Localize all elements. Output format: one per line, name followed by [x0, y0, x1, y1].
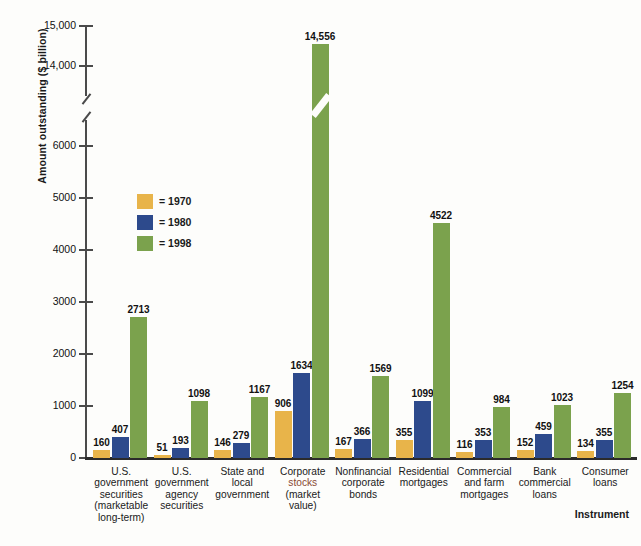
bar-value-label: 1023	[545, 392, 579, 403]
bar-value-label: 1167	[243, 384, 277, 395]
bar	[354, 439, 371, 458]
y-axis-tick-label: 4000	[18, 244, 76, 254]
legend-item: = 1980	[137, 213, 191, 231]
y-axis-tick-label: 5000	[18, 192, 76, 202]
legend-swatch	[137, 236, 153, 251]
legend-swatch	[137, 194, 153, 209]
bar	[493, 407, 510, 458]
bar-value-label: 984	[485, 394, 519, 405]
legend-label: = 1980	[159, 216, 191, 228]
bar-value-label: 1569	[364, 363, 398, 374]
bar-value-label: 1254	[606, 380, 640, 391]
bar	[614, 393, 631, 458]
y-axis-tick-label: 0	[18, 452, 76, 462]
x-axis-category-label: Consumerloans	[567, 466, 641, 489]
bar	[414, 401, 431, 458]
y-axis-tick-label: 2000	[18, 348, 76, 358]
bar	[535, 434, 552, 458]
legend: = 1970= 1980= 1998	[137, 192, 191, 255]
bar	[517, 450, 534, 458]
bar	[191, 401, 208, 458]
bar	[275, 411, 292, 458]
y-axis-tick-label: 3000	[18, 296, 76, 306]
legend-item: = 1998	[137, 234, 191, 252]
bar	[233, 443, 250, 458]
bar	[112, 437, 129, 458]
bar	[372, 376, 389, 458]
bar	[456, 452, 473, 458]
bar	[335, 449, 352, 458]
y-axis-tick-label: 6000	[18, 140, 76, 150]
bar	[475, 440, 492, 458]
bar	[154, 455, 171, 458]
bar	[596, 440, 613, 458]
bar	[396, 440, 413, 458]
highlighted-term: stocks	[288, 477, 317, 488]
bar	[130, 317, 147, 458]
legend-swatch	[137, 215, 153, 230]
x-axis-title: Instrument	[575, 508, 629, 520]
y-axis-tick-label: 14,000	[18, 60, 76, 70]
y-axis-tick-label: 1000	[18, 400, 76, 410]
bar	[554, 405, 571, 458]
bar	[577, 451, 594, 458]
legend-label: = 1998	[159, 237, 191, 249]
bar	[214, 450, 231, 458]
legend-item: = 1970	[137, 192, 191, 210]
bar-value-label: 4522	[424, 210, 458, 221]
bar	[172, 448, 189, 458]
bar	[433, 223, 450, 458]
bar-value-label: 14,556	[303, 31, 337, 42]
bar-value-label: 2713	[122, 304, 156, 315]
bar	[293, 373, 310, 458]
bar	[93, 450, 110, 458]
legend-label: = 1970	[159, 195, 191, 207]
bar-chart: Amount outstanding ($ billion) 010002000…	[0, 0, 641, 546]
y-axis-tick-label: 15,000	[18, 20, 76, 30]
bar-value-label: 1098	[182, 388, 216, 399]
